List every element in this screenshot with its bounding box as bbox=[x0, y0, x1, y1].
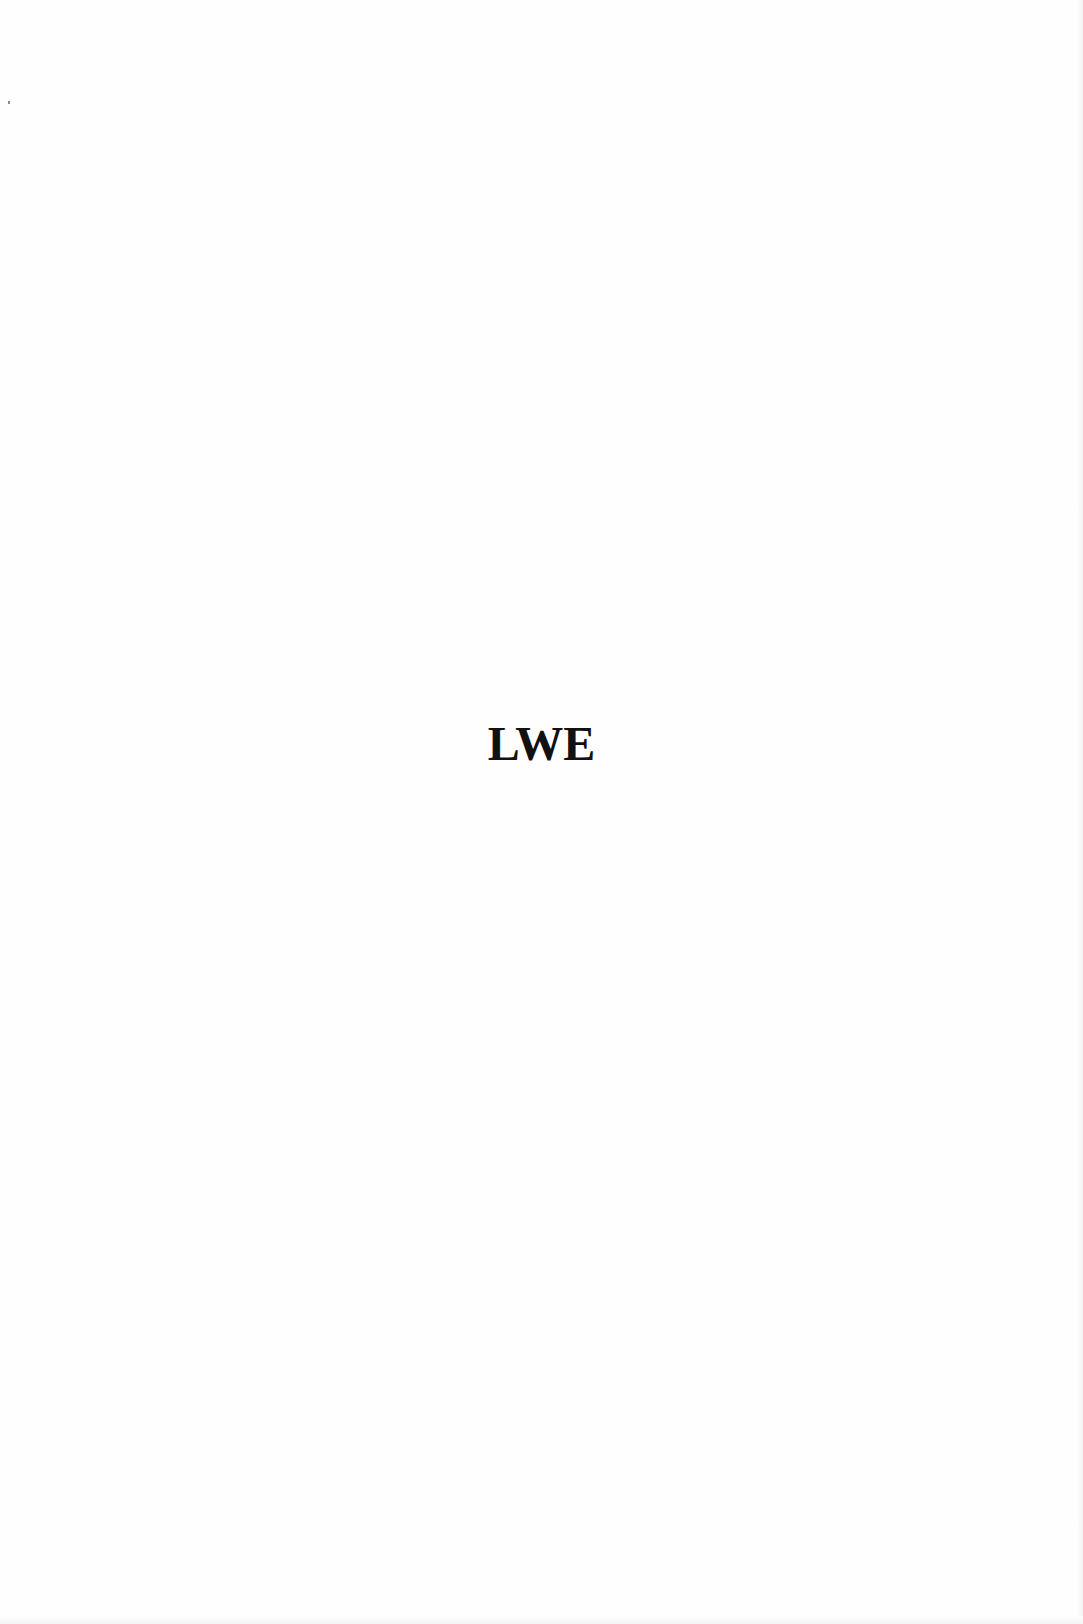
scanned-page: LWE bbox=[0, 0, 1083, 1624]
page-edge-bottom bbox=[0, 1616, 1083, 1624]
scan-artifact bbox=[8, 101, 10, 104]
page-title: LWE bbox=[0, 716, 1083, 772]
page-edge-right bbox=[1077, 0, 1083, 1624]
